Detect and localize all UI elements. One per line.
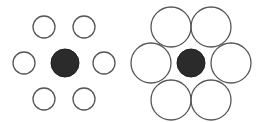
left-center-circle (51, 49, 79, 77)
left-surround-circle-2 (73, 16, 95, 38)
right-surround-circle-6 (191, 80, 231, 120)
right-surround-circle-5 (151, 80, 191, 120)
right-center-circle (177, 49, 205, 77)
left-surround-circle-4 (93, 52, 115, 74)
left-surround-circle-5 (33, 88, 55, 110)
ebbinghaus-diagram (0, 0, 263, 122)
right-surround-circle-1 (151, 7, 191, 47)
right-surround-circle-4 (211, 43, 251, 83)
right-figure-large-surround (131, 7, 251, 120)
right-surround-circle-2 (191, 7, 231, 47)
left-surround-circle-1 (33, 16, 55, 38)
left-surround-circle-6 (73, 88, 95, 110)
left-figure-small-surround (13, 16, 115, 110)
left-surround-circle-3 (13, 52, 35, 74)
right-surround-circle-3 (131, 43, 171, 83)
